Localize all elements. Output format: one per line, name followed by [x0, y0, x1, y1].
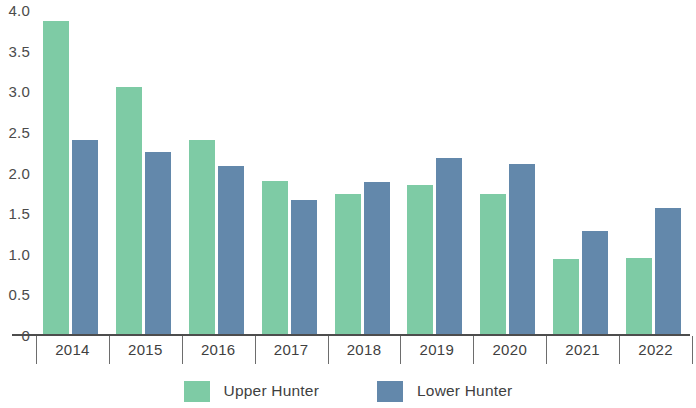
x-axis-label-2019: 2019 [420, 341, 455, 358]
bar-upper-hunter-2015 [116, 87, 142, 335]
bar-lower-hunter-2017 [291, 200, 317, 335]
y-axis-tick-label: 2.5 [9, 123, 30, 140]
y-axis-tick-label: 3.5 [9, 42, 30, 59]
chart-legend: Upper HunterLower Hunter [0, 377, 696, 405]
bar-group [407, 10, 462, 335]
bar-lower-hunter-2016 [218, 166, 244, 335]
bar-group [43, 10, 98, 335]
x-axis-label-2015: 2015 [128, 341, 163, 358]
x-axis-label-2021: 2021 [565, 341, 600, 358]
legend-item[interactable]: Upper Hunter [184, 381, 319, 402]
plot-area [36, 10, 692, 335]
y-axis-tick-label: 2.0 [9, 164, 30, 181]
x-axis-separator [255, 336, 256, 364]
bar-upper-hunter-2020 [480, 194, 506, 335]
bar-group [480, 10, 535, 335]
bar-group [116, 10, 171, 335]
bar-upper-hunter-2022 [626, 258, 652, 335]
bar-group [262, 10, 317, 335]
x-axis-label-2022: 2022 [638, 341, 673, 358]
grouped-bar-chart: 4.03.53.02.52.01.51.00.50 20142015201620… [0, 0, 696, 408]
x-axis-separator [400, 336, 401, 364]
x-axis-categories: 201420152016201720182019202020212022 [0, 336, 696, 370]
bar-lower-hunter-2021 [582, 231, 608, 335]
y-axis-tick-label: 4.0 [9, 2, 30, 19]
x-axis-separator [546, 336, 547, 364]
bar-lower-hunter-2018 [364, 182, 390, 335]
bar-group [189, 10, 244, 335]
legend-item[interactable]: Lower Hunter [377, 381, 512, 402]
y-axis-tick-label: 1.0 [9, 245, 30, 262]
bar-group [626, 10, 681, 335]
y-axis: 4.03.53.02.52.01.51.00.50 [0, 10, 30, 335]
legend-swatch-lower-hunter [377, 381, 403, 402]
bar-lower-hunter-2019 [436, 158, 462, 335]
x-axis-label-2016: 2016 [201, 341, 236, 358]
x-axis-separator [328, 336, 329, 364]
bar-lower-hunter-2020 [509, 164, 535, 335]
x-axis-separator [692, 336, 693, 364]
x-axis-label-2018: 2018 [347, 341, 382, 358]
bar-lower-hunter-2022 [655, 208, 681, 335]
bar-upper-hunter-2021 [553, 259, 579, 335]
x-axis-label-2017: 2017 [274, 341, 309, 358]
y-axis-tick-label: 3.0 [9, 83, 30, 100]
x-axis-separator [109, 336, 110, 364]
x-axis-separator [36, 336, 37, 364]
x-axis-separator [619, 336, 620, 364]
bar-lower-hunter-2015 [145, 152, 171, 335]
bar-group [553, 10, 608, 335]
bar-upper-hunter-2016 [189, 140, 215, 335]
x-axis-label-2014: 2014 [55, 341, 90, 358]
x-axis-label-2020: 2020 [492, 341, 527, 358]
bar-lower-hunter-2014 [72, 140, 98, 335]
legend-label: Lower Hunter [417, 382, 512, 400]
bar-upper-hunter-2019 [407, 185, 433, 335]
bar-group [335, 10, 390, 335]
bar-upper-hunter-2018 [335, 194, 361, 335]
bar-upper-hunter-2014 [43, 21, 69, 335]
y-axis-tick-label: 1.5 [9, 205, 30, 222]
x-axis-separator [182, 336, 183, 364]
legend-swatch-upper-hunter [184, 381, 210, 402]
legend-label: Upper Hunter [224, 382, 319, 400]
y-axis-tick-label: 0.5 [9, 286, 30, 303]
x-axis-separator [473, 336, 474, 364]
bars-layer [36, 10, 692, 335]
bar-upper-hunter-2017 [262, 181, 288, 335]
